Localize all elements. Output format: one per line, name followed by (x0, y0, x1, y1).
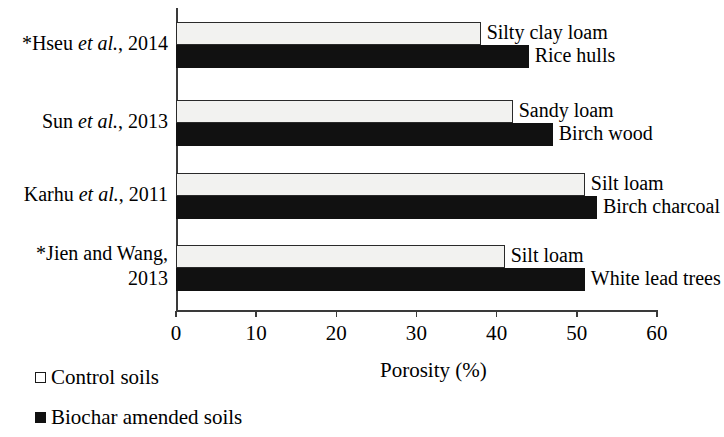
category-label-etal: et al. (78, 110, 118, 132)
x-tick-label: 10 (236, 320, 276, 346)
x-tick-label: 60 (637, 320, 677, 346)
x-tick (656, 311, 658, 317)
x-tick (576, 311, 578, 317)
bar-label-control: Silt loam (591, 172, 664, 195)
x-tick-label: 40 (477, 320, 517, 346)
legend-swatch-biochar-icon (35, 412, 46, 423)
x-tick (255, 311, 257, 317)
bar-label-control: Silt loam (511, 244, 584, 267)
x-tick-label: 0 (156, 320, 196, 346)
legend-swatch-control-icon (35, 372, 46, 383)
x-tick-label: 30 (397, 320, 437, 346)
porosity-bar-chart: 0102030405060 *Hseu et al., 2014Sun et a… (0, 0, 724, 437)
x-axis-title: Porosity (%) (380, 357, 487, 383)
bar-label-biochar: Rice hulls (535, 44, 616, 67)
legend-item-control: Control soils (35, 364, 159, 390)
bar-label-biochar: White lead trees (591, 267, 721, 290)
x-tick-label: 20 (316, 320, 356, 346)
x-tick-label: 50 (557, 320, 597, 346)
legend-item-biochar: Biochar amended soils (35, 404, 242, 430)
bar-biochar (176, 45, 529, 68)
category-label: Sun et al., 2013 (0, 109, 168, 134)
category-label-line1: *Hseu et al., 2014 (0, 31, 168, 56)
category-label-etal: et al. (79, 183, 119, 205)
category-label-etal: et al. (78, 32, 118, 54)
x-tick (336, 311, 338, 317)
bar-control (176, 22, 481, 45)
category-label-line1: Karhu et al., 2011 (0, 182, 168, 207)
bar-label-biochar: Birch charcoal (603, 195, 720, 218)
bar-label-control: Sandy loam (519, 99, 614, 122)
bar-biochar (176, 196, 597, 219)
category-label: Karhu et al., 2011 (0, 182, 168, 207)
bar-label-control: Silty clay loam (487, 21, 608, 44)
legend-label-control: Control soils (51, 364, 159, 390)
x-axis-title-text: Porosity (%) (380, 358, 487, 382)
bar-biochar (176, 123, 553, 146)
bar-control (176, 100, 513, 123)
category-label-line2: 2013 (0, 266, 168, 291)
x-tick (175, 311, 177, 317)
x-tick (416, 311, 418, 317)
legend-label-biochar: Biochar amended soils (51, 404, 242, 430)
category-label-line1: Sun et al., 2013 (0, 109, 168, 134)
category-label: *Jien and Wang,2013 (0, 241, 168, 291)
bar-biochar (176, 268, 585, 291)
category-label-line1: *Jien and Wang, (0, 241, 168, 266)
x-tick (496, 311, 498, 317)
bar-control (176, 173, 585, 196)
bar-label-biochar: Birch wood (559, 122, 653, 145)
bar-control (176, 245, 505, 268)
category-label: *Hseu et al., 2014 (0, 31, 168, 56)
